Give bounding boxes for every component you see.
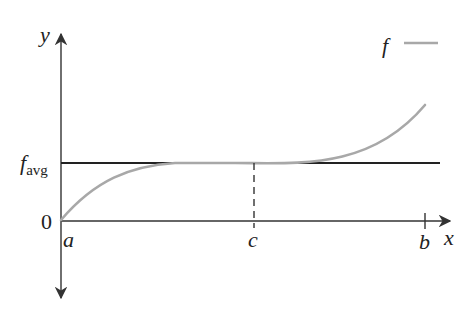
c-label: c [248,227,258,252]
a-label: a [63,227,74,252]
x-axis-label: x [443,225,454,250]
f-avg-label: favg [20,150,48,178]
legend-label: f [382,33,391,58]
f-avg-sub: avg [26,162,48,178]
y-axis-label: y [38,22,50,47]
b-label: b [419,229,430,254]
average-value-diagram: f y x favg 0 a c b [0,0,470,315]
origin-label: 0 [41,209,52,234]
